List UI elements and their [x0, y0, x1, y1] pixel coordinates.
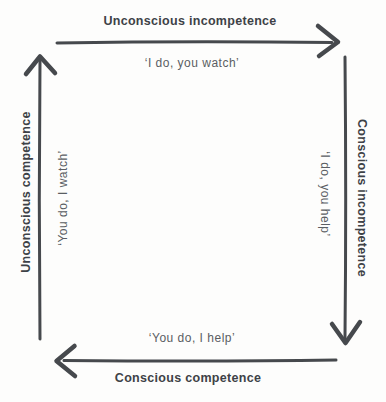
right-edge-label: Conscious incompetence: [355, 119, 369, 277]
left-edge-label: Unconscious competence: [19, 111, 33, 273]
left-edge-quote: ‘You do, I watch’: [56, 150, 70, 245]
bottom-edge-label: Conscious competence: [115, 371, 261, 385]
top-edge-label: Unconscious incompetence: [103, 14, 276, 28]
competence-cycle-diagram: Unconscious incompetence ‘I do, you watc…: [0, 0, 386, 402]
right-edge-quote: ‘I do, you help’: [318, 151, 332, 236]
top-arrow-right-icon: [57, 26, 338, 56]
top-edge-quote: ‘I do, you watch’: [145, 56, 240, 70]
bottom-edge-quote: ‘You do, I help’: [149, 331, 235, 345]
